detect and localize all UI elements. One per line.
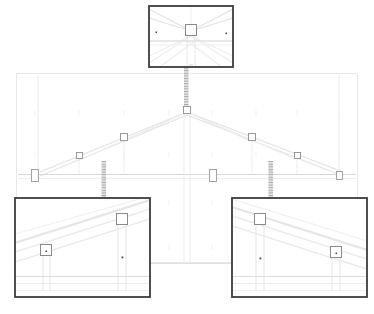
detail-br-dot-2: [336, 253, 338, 255]
detail-br-node-low: [331, 247, 342, 258]
drawing-canvas: [0, 0, 374, 314]
detail-br-node-high: [255, 214, 266, 225]
detail-bottom-right-content: [232, 198, 367, 297]
detail-br-dot: [260, 258, 262, 260]
bottom-right-detail-callout[interactable]: [0, 0, 374, 314]
